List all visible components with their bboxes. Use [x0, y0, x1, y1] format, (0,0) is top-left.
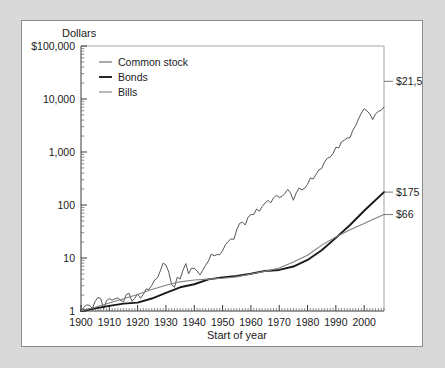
figure-frame: Dollars 1101001,00010,000$100,0001900191…	[21, 20, 423, 347]
x-axis-tick-label: 1980	[296, 316, 320, 328]
x-axis-tick-label: 1920	[126, 316, 150, 328]
bonds-end-value: $175	[396, 186, 420, 198]
x-axis-tick-label: 2000	[352, 316, 376, 328]
y-axis-title-text: Dollars	[62, 27, 97, 39]
legend-label-common-stock: Common stock	[118, 56, 189, 68]
y-axis-tick-label: $100,000	[31, 40, 75, 52]
x-axis-title-text: Start of year	[207, 329, 267, 341]
x-axis-tick-label: 1940	[183, 316, 207, 328]
legend-label-bonds: Bonds	[118, 71, 148, 83]
x-axis-tick-label: 1900	[69, 316, 93, 328]
x-axis-tick-label: 1960	[239, 316, 263, 328]
x-axis-tick-label: 1910	[98, 316, 122, 328]
bills-end-value: $66	[396, 208, 414, 220]
y-axis-tick-label: 100	[57, 199, 75, 211]
x-axis-tick-label: 1990	[324, 316, 348, 328]
y-axis-tick-label: 1	[69, 305, 75, 317]
x-axis-tick-label: 1950	[211, 316, 235, 328]
x-axis-tick-label: 1970	[268, 316, 292, 328]
chart-svg: Dollars 1101001,00010,000$100,0001900191…	[22, 21, 422, 346]
x-axis-tick-label: 1930	[154, 316, 178, 328]
y-axis-tick-label: 10,000	[43, 93, 75, 105]
y-axis-title: Dollars	[62, 27, 97, 39]
common-stock-end-value: $21,536	[396, 75, 422, 87]
x-axis-title: Start of year	[207, 329, 267, 341]
chart-background	[22, 21, 422, 346]
y-axis-tick-label: 1,000	[49, 146, 75, 158]
y-axis-tick-label: 10	[63, 252, 75, 264]
legend-label-bills: Bills	[118, 86, 137, 98]
